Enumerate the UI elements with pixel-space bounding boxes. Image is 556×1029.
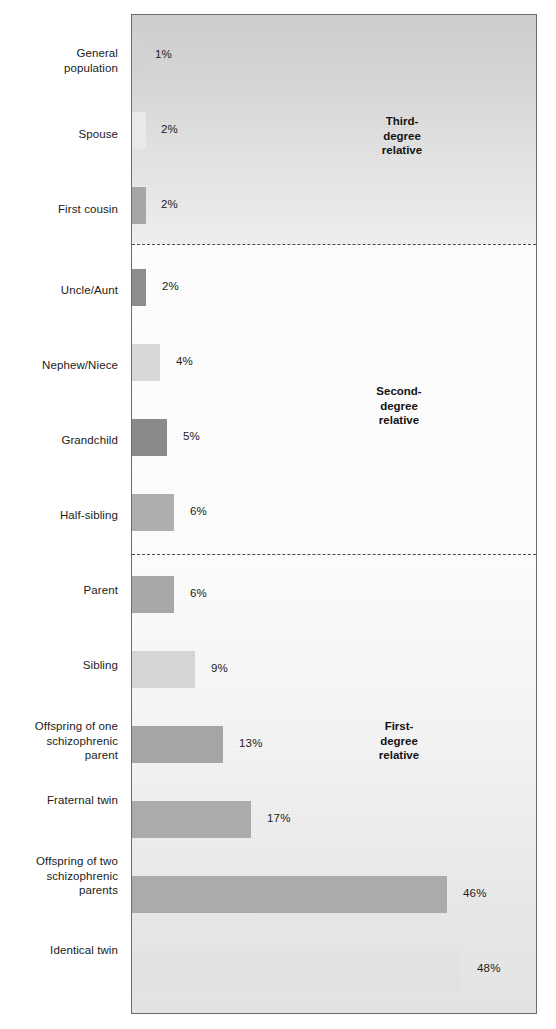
plot-area: 1% 2% 2% 2% 4% 5% 6% 6% 9% 13% 17% 46% 4…: [131, 14, 537, 1014]
category-label-nephew-niece: Nephew/Niece: [0, 358, 118, 373]
category-label-offspring-one: Offspring of one schizophrenic parent: [0, 719, 118, 763]
bar-offspring-two: [132, 876, 447, 913]
bar-uncle-aunt: [132, 269, 146, 306]
annotation-second-degree-relative: Second- degree relative: [334, 384, 464, 428]
value-label-nephew-niece: 4%: [176, 355, 193, 367]
category-label-spouse: Spouse: [0, 127, 118, 142]
bar-identical-twin: [132, 951, 461, 988]
bar-grandchild: [132, 419, 167, 456]
bar-sibling: [132, 651, 195, 688]
value-label-parent: 6%: [190, 587, 207, 599]
schizophrenia-risk-bar-chart: General population Spouse First cousin U…: [0, 0, 556, 1029]
annotation-third-degree-relative: Third- degree relative: [342, 114, 462, 158]
bar-offspring-one: [132, 726, 223, 763]
category-label-column: General population Spouse First cousin U…: [0, 14, 118, 1014]
category-label-offspring-two: Offspring of two schizophrenic parents: [0, 854, 118, 898]
category-label-sibling: Sibling: [0, 658, 118, 673]
bar-parent: [132, 576, 174, 613]
category-label-identical-twin: Identical twin: [0, 943, 118, 958]
group-divider-third-second: [132, 244, 536, 245]
value-label-half-sibling: 6%: [190, 505, 207, 517]
category-label-grandchild: Grandchild: [0, 433, 118, 448]
bar-half-sibling: [132, 494, 174, 531]
shading-band-third-degree: [132, 15, 536, 244]
value-label-sibling: 9%: [211, 662, 228, 674]
category-label-uncle-aunt: Uncle/Aunt: [0, 283, 118, 298]
category-label-parent: Parent: [0, 583, 118, 598]
value-label-identical-twin: 48%: [477, 962, 501, 974]
bar-general-population: [132, 37, 139, 74]
value-label-general-population: 1%: [155, 48, 172, 60]
bar-fraternal-twin: [132, 801, 251, 838]
value-label-uncle-aunt: 2%: [162, 280, 179, 292]
value-label-offspring-two: 46%: [463, 887, 487, 899]
category-label-first-cousin: First cousin: [0, 202, 118, 217]
category-label-half-sibling: Half-sibling: [0, 508, 118, 523]
value-label-fraternal-twin: 17%: [267, 812, 291, 824]
annotation-first-degree-relative: First- degree relative: [334, 719, 464, 763]
shading-band-first-degree: [132, 554, 536, 1014]
value-label-offspring-one: 13%: [239, 737, 263, 749]
value-label-first-cousin: 2%: [161, 198, 178, 210]
category-label-fraternal-twin: Fraternal twin: [0, 793, 118, 808]
group-divider-second-first: [132, 554, 536, 555]
bar-first-cousin: [132, 187, 146, 224]
bar-nephew-niece: [132, 344, 160, 381]
category-label-general-population: General population: [0, 46, 118, 75]
bar-spouse: [132, 112, 146, 149]
value-label-spouse: 2%: [161, 123, 178, 135]
value-label-grandchild: 5%: [183, 430, 200, 442]
